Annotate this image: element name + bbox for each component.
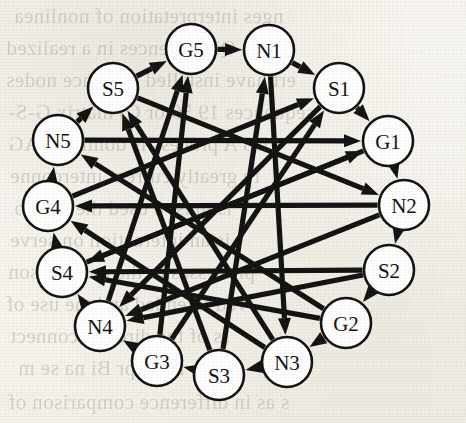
graph-node-g4[interactable]: G4 (23, 181, 73, 231)
node-label: G4 (35, 195, 61, 219)
graph-node-n3[interactable]: N3 (262, 337, 312, 387)
graph-node-n2[interactable]: N2 (379, 180, 429, 230)
arrowhead-icon (225, 43, 242, 56)
node-label: G1 (375, 130, 400, 154)
graph-node-g2[interactable]: G2 (321, 298, 371, 348)
node-label: S4 (51, 261, 73, 285)
node-label: N4 (87, 315, 113, 339)
node-label: N3 (274, 351, 299, 375)
graph-node-s1[interactable]: S1 (314, 63, 364, 113)
graph-node-n1[interactable]: N1 (244, 25, 294, 75)
arrowhead-icon (89, 273, 107, 286)
arrowhead-icon (361, 183, 379, 195)
graph-node-s3[interactable]: S3 (194, 350, 244, 400)
node-label: N1 (256, 39, 281, 63)
figure-root: nges interpretation of nonlineaA Ni-Qi s… (0, 0, 466, 423)
graph-node-s5[interactable]: S5 (88, 63, 138, 113)
arrowhead-icon (256, 77, 269, 95)
arrowhead-icon (345, 151, 363, 163)
arrowhead-icon (125, 304, 143, 316)
node-label: N2 (391, 194, 416, 218)
arrowhead-icon (149, 61, 167, 74)
graph-node-s4[interactable]: S4 (37, 247, 87, 297)
ring-edge (77, 118, 81, 122)
graph-node-n4[interactable]: N4 (75, 301, 125, 351)
graph-node-g1[interactable]: G1 (363, 116, 413, 166)
circular-directed-graph: G5N1S1G1N2S2G2N3S3G3N4S4G4N5S5 (0, 0, 466, 423)
graph-node-g3[interactable]: G3 (132, 336, 182, 386)
arrowhead-icon (297, 61, 315, 75)
node-label: G3 (144, 350, 169, 374)
node-label: G5 (178, 38, 203, 62)
ring-edge (137, 69, 152, 76)
graph-node-g5[interactable]: G5 (166, 24, 216, 74)
node-label: S5 (102, 77, 124, 101)
node-label: S2 (378, 259, 400, 283)
graph-node-n5[interactable]: N5 (33, 115, 83, 165)
arrowhead-icon (278, 318, 291, 335)
node-label: S1 (328, 77, 350, 101)
ring-edge (292, 63, 300, 67)
node-label: N5 (45, 129, 70, 153)
arrowhead-icon (75, 199, 92, 212)
ring-edge (357, 107, 358, 108)
arrowhead-icon (296, 98, 314, 110)
node-label: G2 (333, 312, 358, 336)
graph-node-s2[interactable]: S2 (364, 245, 414, 295)
arrowhead-icon (344, 134, 361, 147)
node-label: S3 (208, 364, 230, 388)
